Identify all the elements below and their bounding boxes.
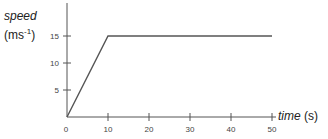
origin-label: 0 [64,125,69,134]
y-tick-label: 5 [55,86,60,95]
x-tick-label: 50 [268,125,277,134]
series-line-speed [67,36,272,117]
x-tick-label: 10 [104,125,113,134]
chart-canvas: 1020304050510150 [0,0,328,139]
x-tick-label: 20 [145,125,154,134]
y-tick-label: 15 [50,32,59,41]
x-tick-label: 40 [227,125,236,134]
x-tick-label: 30 [186,125,195,134]
y-tick-label: 10 [50,59,59,68]
